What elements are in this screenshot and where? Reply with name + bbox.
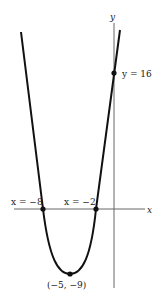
vertex-label: (−5, −9) (47, 280, 86, 290)
root-right-point (93, 206, 98, 211)
parabola-curve (21, 30, 120, 274)
root-right-label: x = −2 (64, 197, 96, 207)
y-intercept-point (111, 70, 116, 75)
parabola-graph: y x y = 16 x = −8 x = −2 (−5, −9) (0, 0, 158, 308)
root-left-point (40, 206, 45, 211)
y-intercept-label: y = 16 (121, 69, 152, 79)
x-axis-label: x (147, 205, 152, 215)
vertex-point (67, 271, 72, 276)
y-axis-label: y (109, 12, 116, 22)
root-left-label: x = −8 (11, 197, 43, 207)
